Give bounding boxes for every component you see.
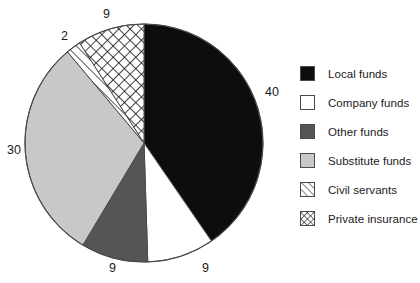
legend-item-civil-servants[interactable]: Civil servants [300, 175, 418, 204]
legend-item-other-funds[interactable]: Other funds [300, 117, 418, 146]
slice-value-company-funds: 9 [202, 261, 209, 275]
slice-value-civil-servants: 2 [61, 29, 68, 43]
diagonal-stripe-swatch [300, 182, 315, 197]
legend-item-substitute-funds[interactable]: Substitute funds [300, 146, 418, 175]
white-swatch [300, 95, 315, 110]
legend-item-company-funds[interactable]: Company funds [300, 88, 418, 117]
legend-item-local-funds[interactable]: Local funds [300, 59, 418, 88]
pie-chart-figure: 40 9 9 30 2 9 Local fundsCompany fundsOt… [0, 0, 420, 283]
legend-item-label: Other funds [328, 126, 389, 138]
legend-item-label: Local funds [328, 68, 387, 80]
slice-value-substitute-funds: 30 [7, 143, 21, 157]
legend-item-label: Substitute funds [328, 155, 411, 167]
legend-item-label: Civil servants [328, 184, 397, 196]
light-gray-swatch [300, 153, 315, 168]
slice-value-private-insurance: 9 [103, 7, 110, 21]
legend-item-label: Private insurance [328, 213, 418, 225]
black-swatch [300, 66, 315, 81]
dark-gray-swatch [300, 124, 315, 139]
slice-value-local-funds: 40 [265, 85, 279, 99]
pie-slices-group [25, 24, 263, 262]
slice-value-other-funds: 9 [109, 261, 116, 275]
crosshatch-swatch [300, 211, 315, 226]
legend-item-private-insurance[interactable]: Private insurance [300, 204, 418, 233]
legend-item-label: Company funds [328, 97, 409, 109]
chart-legend: Local fundsCompany fundsOther fundsSubst… [300, 59, 418, 233]
